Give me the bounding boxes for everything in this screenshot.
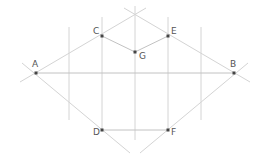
points: ABCEGDF xyxy=(32,26,236,137)
point-marker-icon xyxy=(101,129,104,132)
segment-g-e xyxy=(135,36,168,52)
geometry-diagram: ABCEGDF xyxy=(0,0,268,163)
line-b-bottom xyxy=(140,63,248,153)
point-label: F xyxy=(171,127,176,137)
construction-lines xyxy=(20,6,250,153)
point-label: B xyxy=(230,59,236,69)
point-label: G xyxy=(139,51,146,61)
point-marker-icon xyxy=(35,72,38,75)
line-a-apex xyxy=(20,8,146,82)
point-f: F xyxy=(167,127,177,137)
point-label: D xyxy=(93,127,100,137)
point-marker-icon xyxy=(101,35,104,38)
point-marker-icon xyxy=(167,129,170,132)
line-b-apex xyxy=(124,8,250,82)
point-marker-icon xyxy=(167,35,170,38)
point-label: E xyxy=(171,26,177,36)
line-a-bottom xyxy=(22,63,130,153)
point-d: D xyxy=(93,127,104,137)
point-marker-icon xyxy=(134,51,137,54)
point-b: B xyxy=(230,59,236,75)
segment-c-g xyxy=(102,36,135,52)
point-label: C xyxy=(93,26,99,36)
point-marker-icon xyxy=(233,72,236,75)
point-label: A xyxy=(32,59,39,69)
